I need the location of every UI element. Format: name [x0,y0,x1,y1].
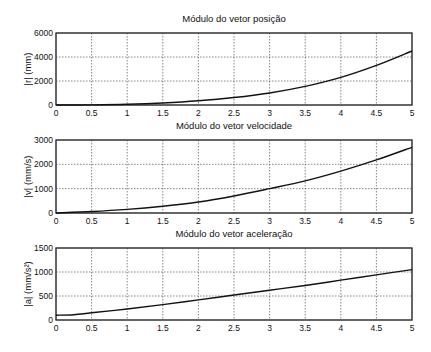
x-tick-label: 3 [267,108,272,118]
x-tick-label: 1.5 [157,108,169,118]
x-tick-label: 1 [125,216,130,226]
x-tick-label: 5 [410,216,415,226]
x-tick-label: 2 [196,323,201,333]
x-tick-label: 0 [54,108,59,118]
subplot-3: 00.511.522.533.544.55050010001500Módulo … [22,228,415,333]
x-tick-label: 0.5 [86,323,98,333]
x-tick-label: 3 [267,323,272,333]
y-tick-label: 3000 [34,135,53,145]
x-tick-label: 4 [338,323,343,333]
x-tick-label: 0 [54,216,59,226]
y-tick-label: 2000 [34,159,53,169]
y-axis-label: |a| (mm/s²) [22,261,33,307]
x-tick-label: 3.5 [299,216,311,226]
x-tick-label: 2 [196,216,201,226]
x-tick-label: 3.5 [299,108,311,118]
x-tick-label: 1.5 [157,216,169,226]
x-tick-label: 4.5 [370,216,382,226]
y-tick-label: 1500 [34,243,53,253]
x-tick-label: 3 [267,216,272,226]
subplot-2: 00.511.522.533.544.550100020003000Módulo… [22,120,415,226]
y-tick-label: 500 [39,291,53,301]
x-tick-label: 0 [54,323,59,333]
x-tick-label: 4 [338,108,343,118]
subplot-1: 00.511.522.533.544.550200040006000Módulo… [22,13,415,118]
x-tick-label: 4.5 [370,323,382,333]
x-tick-label: 0.5 [86,216,98,226]
y-tick-label: 0 [48,315,53,325]
x-tick-label: 5 [410,108,415,118]
y-tick-label: 0 [48,208,53,218]
x-tick-label: 0.5 [86,108,98,118]
x-tick-label: 2.5 [228,108,240,118]
x-tick-label: 2.5 [228,323,240,333]
y-axis-label: |v| (mm/s) [22,156,33,198]
x-tick-label: 1 [125,323,130,333]
x-tick-label: 1.5 [157,323,169,333]
y-tick-label: 6000 [34,28,53,38]
x-tick-label: 3.5 [299,323,311,333]
x-tick-label: 1 [125,108,130,118]
y-tick-label: 1000 [34,267,53,277]
chart-canvas: 00.511.522.533.544.550200040006000Módulo… [0,0,431,352]
y-tick-label: 4000 [34,52,53,62]
x-tick-label: 2 [196,108,201,118]
x-tick-label: 4.5 [370,108,382,118]
subplot-title: Módulo do vetor posição [182,13,286,24]
subplot-title: Módulo do vetor aceleração [175,228,292,239]
y-axis-label: |r| (mm) [22,53,33,86]
y-tick-label: 1000 [34,184,53,194]
y-tick-label: 0 [48,100,53,110]
x-tick-label: 2.5 [228,216,240,226]
subplot-title: Módulo do vetor velocidade [176,120,292,131]
y-tick-label: 2000 [34,76,53,86]
x-tick-label: 4 [338,216,343,226]
x-tick-label: 5 [410,323,415,333]
